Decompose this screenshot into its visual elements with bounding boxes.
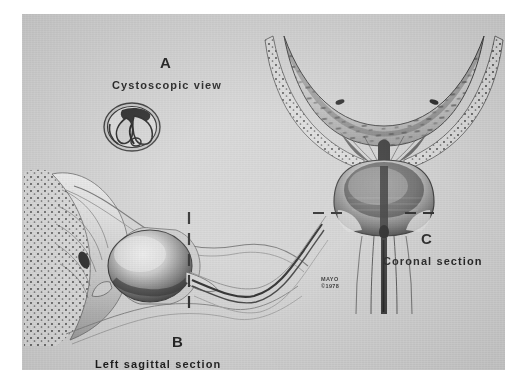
mayo-studio-name: MAYO xyxy=(321,276,339,283)
panel-b-figure xyxy=(24,170,328,346)
panel-a-letter: A xyxy=(160,55,171,70)
coronal-urethra xyxy=(356,236,412,314)
panel-c-letter: C xyxy=(421,231,432,246)
panel-c-caption: Coronal section xyxy=(383,256,483,267)
mayo-copyright-year: ©1978 xyxy=(321,283,339,290)
coronal-prostate xyxy=(334,160,434,239)
ureteral-orifice-left xyxy=(335,98,345,105)
ureteral-orifice-right xyxy=(429,98,439,105)
panel-a-figure xyxy=(104,103,160,151)
panel-a-caption: Cystoscopic view xyxy=(112,80,222,91)
panel-b-caption: Left sagittal section xyxy=(95,359,221,370)
illustration-plate: A Cystoscopic view B Left sagittal secti… xyxy=(22,14,505,370)
mayo-credit: MAYO ©1978 xyxy=(321,276,339,291)
panel-c-figure xyxy=(22,14,505,370)
panel-b-letter: B xyxy=(172,334,183,349)
